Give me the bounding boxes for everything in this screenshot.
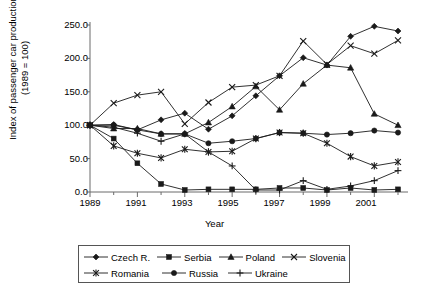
legend-marker-triangle-icon [218, 251, 244, 263]
legend-marker-diamond-icon [83, 251, 109, 263]
x-tick-label-1997: 1997 [254, 198, 294, 208]
legend-label-ukraine: Ukraine [253, 268, 294, 279]
legend-item-poland[interactable]: Poland [218, 251, 282, 263]
legend-marker-asterisk-icon [83, 267, 109, 279]
legend-marker-circle-icon [161, 267, 187, 279]
legend-label-slovenia: Slovenia [307, 252, 351, 263]
chart-legend: Czech R. Serbia Poland Slovenia Romania [78, 245, 350, 283]
legend-item-romania[interactable]: Romania [83, 267, 161, 279]
x-tick-label-1991: 1991 [116, 198, 156, 208]
legend-label-czech-r: Czech R. [109, 252, 156, 263]
legend-marker-cross-x-icon [281, 251, 307, 263]
legend-marker-square-icon [156, 251, 182, 263]
x-tick-label-1989: 1989 [70, 198, 110, 208]
x-tick-label-1993: 1993 [162, 198, 202, 208]
x-tick-label-1999: 1999 [300, 198, 340, 208]
legend-item-ukraine[interactable]: Ukraine [227, 267, 293, 279]
legend-row-1: Czech R. Serbia Poland Slovenia [83, 249, 345, 265]
legend-item-serbia[interactable]: Serbia [156, 251, 217, 263]
legend-item-slovenia[interactable]: Slovenia [281, 251, 351, 263]
legend-item-czech-r[interactable]: Czech R. [83, 251, 156, 263]
x-axis-title: Year [0, 218, 429, 229]
x-tick-label-1995: 1995 [208, 198, 248, 208]
legend-label-romania: Romania [109, 268, 155, 279]
legend-item-russia[interactable]: Russia [161, 267, 227, 279]
legend-row-2: Romania Russia Ukraine [83, 265, 345, 281]
legend-marker-plus-icon [227, 267, 253, 279]
legend-label-serbia: Serbia [182, 252, 217, 263]
chart-figure: Index of passenger car production(1989 =… [0, 0, 429, 292]
legend-label-poland: Poland [244, 252, 282, 263]
x-tick-label-2001: 2001 [346, 198, 386, 208]
legend-label-russia: Russia [187, 268, 224, 279]
